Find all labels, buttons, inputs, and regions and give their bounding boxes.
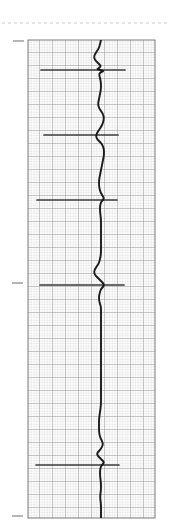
graph-paper-grid [28, 40, 155, 518]
chart-page [0, 0, 171, 530]
strip-chart-recording [0, 0, 171, 530]
plot-area [28, 40, 155, 518]
